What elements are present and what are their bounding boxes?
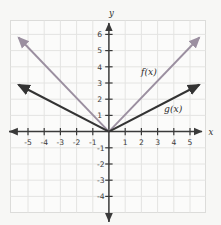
- plot-frame: [11, 21, 206, 213]
- y-axis-label: y: [108, 8, 114, 18]
- coordinate-plane-svg: -5 -4 -3 -2 -1 1 2 3 4 5 6 5 4 3 2 1 -1 …: [0, 0, 221, 225]
- x-tick-label: 3: [155, 138, 160, 147]
- x-tick-label: -4: [40, 138, 48, 147]
- x-tick-label: 4: [171, 138, 176, 147]
- y-tick-label: 6: [97, 30, 102, 39]
- function-g-label: g(x): [164, 103, 183, 114]
- x-tick-label: -3: [57, 138, 65, 147]
- x-tick-label: -1: [89, 138, 97, 147]
- x-tick-label: 1: [123, 138, 128, 147]
- y-tick-label: 5: [97, 46, 102, 55]
- graph-figure: -5 -4 -3 -2 -1 1 2 3 4 5 6 5 4 3 2 1 -1 …: [0, 0, 221, 225]
- x-tick-label: 2: [139, 138, 144, 147]
- y-tick-label: 2: [97, 95, 102, 104]
- x-axis-label: x: [209, 127, 214, 137]
- y-tick-label: -3: [97, 176, 105, 185]
- y-tick-label: 3: [97, 79, 102, 88]
- y-tick-label: -4: [97, 192, 105, 201]
- x-tick-label: -2: [73, 138, 81, 147]
- y-tick-label: -2: [97, 160, 105, 169]
- x-tick-label: -5: [24, 138, 32, 147]
- x-tick-label: 5: [188, 138, 193, 147]
- function-f-label: f(x): [140, 66, 157, 77]
- y-tick-label: -1: [97, 144, 105, 153]
- y-tick-label: 4: [97, 63, 102, 72]
